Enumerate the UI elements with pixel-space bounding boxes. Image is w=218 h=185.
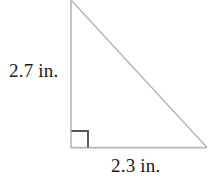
hypotenuse-line	[71, 0, 207, 148]
triangle-drawing	[0, 0, 218, 185]
right-angle-marker-icon	[72, 131, 89, 148]
horizontal-leg-label: 2.3 in.	[111, 156, 160, 176]
vertical-leg-label: 2.7 in.	[9, 61, 58, 81]
right-triangle-figure: 2.7 in. 2.3 in.	[0, 0, 218, 185]
